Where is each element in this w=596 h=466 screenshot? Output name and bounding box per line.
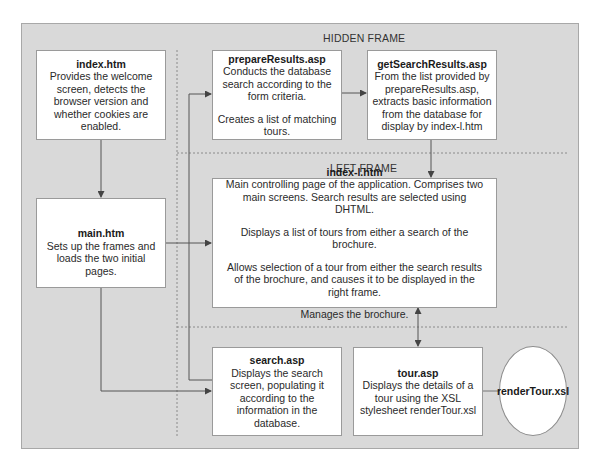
node-title: prepareResults.asp [228,53,325,66]
node-description: Conducts the database search according t… [217,65,337,103]
hidden-frame-label: HIDDEN FRAME [323,32,405,44]
node-title: index.htm [76,58,126,71]
node-tour-asp: tour.asp Displays the details of a tour … [353,347,483,436]
node-description: Sets up the frames and loads the two ini… [41,240,161,278]
node-title: getSearchResults.asp [377,58,487,71]
node-title: index-l.htm [326,166,382,179]
node-title: renderTour.xsl [497,385,569,397]
node-description: From the list provided by prepareResults… [372,70,492,133]
node-search-asp: search.asp Displays the search screen, p… [212,347,342,436]
node-title: main.htm [78,227,125,240]
node-index-htm: index.htm Provides the welcome screen, d… [36,50,166,140]
node-description: Creates a list of matching tours. [217,113,337,138]
node-description: Displays the details of a tour using the… [358,379,478,417]
node-index-l-htm: index-l.htm Main controlling page of the… [212,178,497,308]
node-description: Provides the welcome screen, detects the… [41,70,161,133]
node-prepare-results: prepareResults.asp Conducts the database… [212,50,342,140]
node-description: Displays a list of tours from either a s… [223,226,486,251]
node-description: Manages the brochure. [301,308,409,321]
node-description: Allows selection of a tour from either t… [223,261,486,299]
node-get-search-results: getSearchResults.asp From the list provi… [367,50,497,140]
node-main-htm: main.htm Sets up the frames and loads th… [36,198,166,288]
node-title: search.asp [250,354,305,367]
node-description: Displays the search screen, populating i… [217,367,337,430]
node-render-tour-xsl: renderTour.xsl [499,346,567,436]
node-title: tour.asp [398,367,439,380]
node-description: Main controlling page of the application… [223,178,486,216]
